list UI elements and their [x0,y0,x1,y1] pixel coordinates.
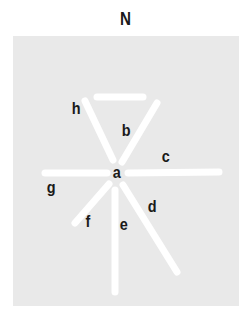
label-h: h [72,99,81,119]
label-f: f [85,212,90,232]
label-c: c [162,147,170,167]
label-e: e [120,215,128,235]
label-g: g [47,178,56,198]
label-b: b [122,121,131,141]
label-a: a [113,163,121,183]
line-f [75,184,109,223]
path-lines [0,0,251,318]
label-d: d [148,197,157,217]
line-c [128,172,219,173]
line-h [85,101,113,160]
